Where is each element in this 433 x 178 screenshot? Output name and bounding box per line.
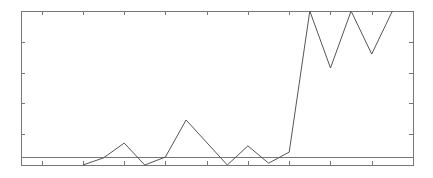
chart-canvas: [0, 0, 433, 178]
data-series: [83, 11, 393, 165]
line-chart: [0, 0, 433, 178]
plot-border: [22, 12, 414, 166]
axis-ticks: [21, 11, 413, 165]
plot-frame: [22, 12, 414, 166]
series-line: [83, 11, 393, 165]
